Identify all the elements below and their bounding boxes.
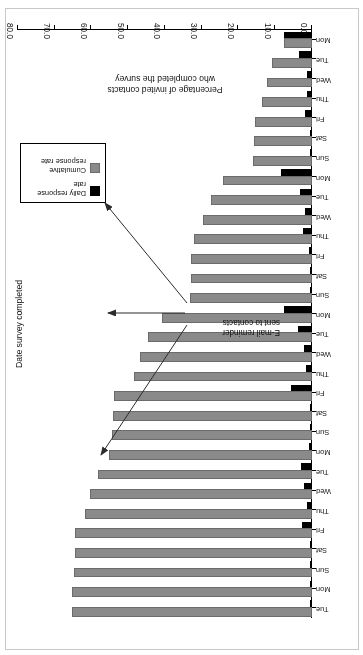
category-label: Fri <box>316 252 342 260</box>
category-label: Tue <box>316 330 342 338</box>
bar-cumulative-response-rate <box>190 293 312 303</box>
value-axis-title-line1: Percentage of invited contacts <box>18 84 312 95</box>
value-tick <box>311 25 312 30</box>
bar-daily-response-rate <box>303 228 312 235</box>
category-label: Thu <box>316 95 342 103</box>
category-label: Wed <box>316 76 342 84</box>
bar-cumulative-response-rate <box>272 58 312 68</box>
bar-daily-response-rate <box>310 600 312 607</box>
annotation-line1: E-mail reminder <box>186 327 280 337</box>
bar-cumulative-response-rate <box>75 548 312 558</box>
category-label: Mon <box>316 311 342 319</box>
value-tick-label: 20.0 <box>226 23 235 39</box>
legend-swatch-daily-icon <box>90 186 100 196</box>
category-label: Tue <box>316 468 342 476</box>
bar-group: Fri <box>18 520 312 540</box>
bar-cumulative-response-rate <box>113 411 312 421</box>
bar-group: Thu <box>18 500 312 520</box>
bar-cumulative-response-rate <box>191 274 312 284</box>
legend-label-daily-line2: rate <box>73 180 86 189</box>
bar-cumulative-response-rate <box>140 352 312 362</box>
category-label: Tue <box>316 605 342 613</box>
value-tick <box>201 25 202 30</box>
legend-label-cumulative-line2: response rate <box>41 157 86 166</box>
category-label: Sat <box>316 546 342 554</box>
bar-cumulative-response-rate <box>191 254 312 264</box>
category-label: Thu <box>316 507 342 515</box>
bar-cumulative-response-rate <box>72 587 312 597</box>
bar-daily-response-rate <box>291 385 312 392</box>
category-label: Thu <box>316 370 342 378</box>
bar-group: Mon <box>18 442 312 462</box>
value-tick <box>274 25 275 30</box>
bar-daily-response-rate <box>300 189 312 196</box>
bar-daily-response-rate <box>305 208 312 215</box>
bar-group: Tue <box>18 461 312 481</box>
legend-swatch-cumulative-icon <box>90 163 100 173</box>
legend-label-daily: Daily response rate <box>37 180 86 197</box>
bar-cumulative-response-rate <box>254 136 312 146</box>
category-label: Wed <box>316 213 342 221</box>
bar-daily-response-rate <box>298 326 312 333</box>
bar-daily-response-rate <box>307 502 312 509</box>
bar-cumulative-response-rate <box>262 97 312 107</box>
bar-group: Sun <box>18 422 312 442</box>
legend-label-cumulative: Cumulative response rate <box>41 157 86 174</box>
value-tick <box>91 25 92 30</box>
bar-daily-response-rate <box>301 463 312 470</box>
bar-group: Sat <box>18 402 312 422</box>
value-tick-label: 10.0 <box>263 23 272 39</box>
bar-daily-response-rate <box>309 247 312 254</box>
bar-cumulative-response-rate <box>135 372 313 382</box>
bar-daily-response-rate <box>306 365 312 372</box>
bar-group: Sat <box>18 265 312 285</box>
bar-daily-response-rate <box>310 130 312 137</box>
category-label: Sat <box>316 134 342 142</box>
bar-daily-response-rate <box>310 561 312 568</box>
category-label: Mon <box>316 585 342 593</box>
bar-daily-response-rate <box>302 522 312 529</box>
bar-group: Sun <box>18 559 312 579</box>
bar-daily-response-rate <box>310 541 312 548</box>
category-label: Fri <box>316 389 342 397</box>
bar-cumulative-response-rate <box>114 391 312 401</box>
bar-daily-response-rate <box>299 51 312 58</box>
bar-cumulative-response-rate <box>109 450 312 460</box>
bar-daily-response-rate <box>305 110 312 117</box>
value-tick-label: 40.0 <box>152 23 161 39</box>
legend-item-cumulative-response-rate: Cumulative response rate <box>25 157 100 174</box>
bar-daily-response-rate <box>309 443 312 450</box>
bar-group: Tue <box>18 598 312 618</box>
bar-cumulative-response-rate <box>255 117 312 127</box>
category-label: Wed <box>316 350 342 358</box>
value-tick <box>238 25 239 30</box>
category-label: Tue <box>316 56 342 64</box>
category-label: Sat <box>316 409 342 417</box>
bar-daily-response-rate <box>284 306 312 313</box>
category-label: Mon <box>316 36 342 44</box>
bar-cumulative-response-rate <box>194 234 312 244</box>
annotation-email-reminder: E-mail reminder sent to contacts <box>186 317 280 337</box>
figure-chart-survey-response: MonTueWedThuFriSatSunMonTueWedThuFriSatS… <box>0 0 363 655</box>
rotated-plot-container: MonTueWedThuFriSatSunMonTueWedThuFriSatS… <box>0 0 363 655</box>
bar-group: Thu <box>18 363 312 383</box>
bar-daily-response-rate <box>282 169 313 176</box>
bar-group: Fri <box>18 383 312 403</box>
bar-group: Mon <box>18 579 312 599</box>
category-label: Thu <box>316 232 342 240</box>
bar-cumulative-response-rate <box>74 568 312 578</box>
category-label: Mon <box>316 448 342 456</box>
category-label: Wed <box>316 487 342 495</box>
bar-cumulative-response-rate <box>203 215 312 225</box>
bar-daily-response-rate <box>304 345 312 352</box>
value-tick-label: 60.0 <box>79 23 88 39</box>
category-axis-title: Date survey completed <box>14 30 24 618</box>
bar-daily-response-rate <box>310 581 312 588</box>
bar-group: Sun <box>18 285 312 305</box>
category-label: Mon <box>316 174 342 182</box>
bar-daily-response-rate <box>310 424 312 431</box>
value-tick <box>164 25 165 30</box>
value-tick-label: 30.0 <box>189 23 198 39</box>
bar-cumulative-response-rate <box>90 489 312 499</box>
value-tick <box>127 25 128 30</box>
